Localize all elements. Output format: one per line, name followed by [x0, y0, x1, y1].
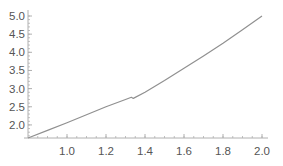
- x-tick-label: 1.4: [137, 145, 154, 157]
- x-tick-label: 1.2: [98, 145, 114, 157]
- y-tick-label: 3.5: [9, 64, 25, 76]
- x-axis: 1.01.21.41.61.82.0: [24, 134, 270, 157]
- plot-area: [28, 16, 262, 138]
- x-tick-label: 1.6: [176, 145, 192, 157]
- line-chart: 2.02.53.03.54.04.55.0 1.01.21.41.61.82.0: [0, 0, 283, 166]
- y-tick-label: 4.0: [9, 46, 25, 58]
- y-tick-label: 5.0: [9, 10, 25, 22]
- x-tick-label: 1.0: [59, 145, 75, 157]
- x-tick-label: 2.0: [254, 145, 270, 157]
- y-tick-label: 3.0: [9, 83, 25, 95]
- y-tick-label: 4.5: [9, 28, 25, 40]
- x-tick-label: 1.8: [215, 145, 231, 157]
- series-line: [28, 16, 262, 138]
- y-axis: 2.02.53.03.54.04.55.0: [9, 10, 32, 138]
- y-tick-label: 2.0: [9, 119, 25, 131]
- y-tick-label: 2.5: [9, 101, 25, 113]
